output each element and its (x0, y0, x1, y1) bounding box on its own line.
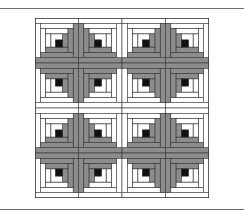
center-square (94, 169, 101, 176)
center-square (55, 169, 62, 176)
log-left (79, 68, 84, 102)
log-left (166, 158, 171, 192)
log-top (133, 119, 155, 124)
log-top (133, 74, 155, 79)
log-right (73, 23, 78, 57)
log-bottom (84, 52, 117, 57)
log-left (40, 119, 45, 143)
log-top (84, 68, 117, 73)
log-bottom (171, 142, 204, 147)
log-right (160, 158, 165, 192)
log-right (204, 23, 209, 57)
log-bottom (122, 193, 166, 198)
log-right (155, 119, 160, 143)
center-square (142, 40, 149, 47)
log-right (150, 34, 155, 47)
log-left (89, 169, 94, 182)
log-top (84, 113, 117, 118)
log-right (198, 74, 203, 98)
log-top (46, 29, 68, 34)
log-bottom (84, 97, 117, 102)
log-cabin-quilt-illustration (35, 18, 209, 198)
center-square (181, 40, 188, 47)
log-right (63, 124, 68, 137)
log-top (79, 18, 123, 23)
log-top (35, 153, 79, 158)
log-bottom (166, 103, 210, 108)
log-bottom (133, 92, 155, 97)
center-square (142, 79, 149, 86)
log-bottom (127, 187, 160, 192)
log-top (122, 18, 166, 23)
log-top (133, 29, 155, 34)
log-left (122, 158, 127, 192)
center-square (142, 130, 149, 137)
log-top (166, 153, 210, 158)
log-left (89, 79, 94, 92)
log-bottom (40, 142, 73, 147)
center-square (55, 130, 62, 137)
log-top (40, 113, 73, 118)
log-left (35, 158, 40, 192)
center-square (181, 79, 188, 86)
log-bottom (46, 92, 68, 97)
log-bottom (127, 52, 160, 57)
log-left (133, 34, 138, 47)
log-bottom (166, 193, 210, 198)
log-left (176, 169, 181, 182)
log-left (171, 119, 176, 143)
log-right (73, 68, 78, 102)
log-bottom (176, 137, 198, 142)
log-right (160, 23, 165, 57)
quilt-block (166, 63, 210, 108)
quilt-diagram (35, 18, 209, 198)
log-bottom (46, 47, 68, 52)
log-right (204, 68, 209, 102)
quilt-block (79, 63, 123, 108)
log-top (127, 158, 160, 163)
log-right (73, 158, 78, 192)
log-top (176, 29, 198, 34)
log-left (122, 68, 127, 102)
log-left (84, 164, 89, 188)
log-bottom (84, 142, 117, 147)
log-right (111, 164, 116, 188)
log-left (89, 34, 94, 47)
log-right (150, 124, 155, 137)
log-top (79, 108, 123, 113)
log-bottom (35, 193, 79, 198)
log-top (171, 68, 204, 73)
center-square (181, 130, 188, 137)
log-top (35, 63, 79, 68)
log-bottom (84, 187, 117, 192)
log-right (150, 169, 155, 182)
log-top (171, 113, 204, 118)
log-top (176, 119, 198, 124)
center-square (55, 79, 62, 86)
log-top (166, 63, 210, 68)
log-top (46, 164, 68, 169)
log-right (68, 74, 73, 98)
log-right (204, 113, 209, 147)
log-right (155, 164, 160, 188)
log-left (166, 113, 171, 147)
log-bottom (79, 58, 123, 63)
log-top (166, 18, 210, 23)
log-right (117, 158, 122, 192)
log-right (198, 164, 203, 188)
log-bottom (122, 58, 166, 63)
center-square (94, 79, 101, 86)
log-left (84, 119, 89, 143)
quilt-block (79, 153, 123, 198)
log-top (89, 74, 111, 79)
log-top (176, 74, 198, 79)
log-bottom (89, 47, 111, 52)
log-left (46, 34, 51, 47)
log-top (122, 63, 166, 68)
quilt-block (122, 153, 166, 198)
log-bottom (171, 187, 204, 192)
log-bottom (171, 52, 204, 57)
top-rule-line (0, 8, 244, 9)
quilt-block (35, 63, 79, 108)
log-top (35, 108, 79, 113)
